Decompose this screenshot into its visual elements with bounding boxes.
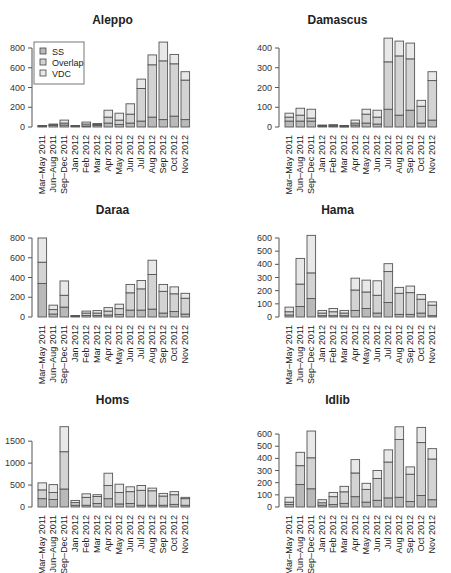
bar-segment-overlap <box>159 291 168 313</box>
chart-svg: 0100200300400500600Mar–May 2011Jun–Aug 2… <box>225 190 450 380</box>
bar-segment-overlap <box>38 262 47 283</box>
y-tick-label: 600 <box>10 63 25 73</box>
bar-segment-overlap <box>428 459 437 500</box>
bar-segment-overlap <box>428 81 437 121</box>
bar-segment-overlap <box>104 117 113 123</box>
bar-segment-ss <box>60 489 69 507</box>
y-tick-label: 800 <box>10 43 25 53</box>
y-tick-label: 200 <box>257 478 272 488</box>
bar-segment-ss <box>362 308 371 317</box>
bar-segment-vdc <box>296 452 305 465</box>
x-tick-label: Jan 2012 <box>317 135 327 172</box>
x-tick-label: Sep 2012 <box>405 515 415 554</box>
bar-segment-ss <box>373 500 382 507</box>
bar-segment-overlap <box>406 59 415 110</box>
bar-segment-vdc <box>49 124 58 125</box>
x-tick-label: Sep 2012 <box>405 325 415 364</box>
x-tick-label: May 2012 <box>114 135 124 175</box>
y-tick-label: 600 <box>10 253 25 263</box>
bar-segment-overlap <box>417 443 426 496</box>
y-tick-label: 200 <box>10 292 25 302</box>
y-tick-label: 300 <box>257 466 272 476</box>
bar-segment-vdc <box>428 72 437 81</box>
bar-segment-vdc <box>49 485 58 493</box>
y-tick-label: 600 <box>257 233 272 243</box>
x-tick-label: Jun–Aug 2011 <box>295 135 305 192</box>
x-tick-label: Jan 2012 <box>70 515 80 552</box>
x-tick-label: May 2012 <box>361 325 371 365</box>
bar-segment-vdc <box>406 467 415 474</box>
bar-segment-ss <box>351 497 360 507</box>
bar-segment-vdc <box>71 126 80 127</box>
y-tick-label: 100 <box>257 299 272 309</box>
bar-segment-overlap <box>148 65 157 117</box>
bar-segment-vdc <box>71 316 80 317</box>
x-tick-label: Jun–Aug 2011 <box>48 325 58 382</box>
chart-svg: 0200400600800Mar–May 2011Jun–Aug 2011Sep… <box>0 190 225 380</box>
bar-segment-overlap <box>137 289 146 310</box>
bar-segment-overlap <box>181 499 190 506</box>
bar-segment-overlap <box>49 310 58 314</box>
x-tick-label: Jul 2012 <box>136 515 146 549</box>
y-tick-label: 200 <box>257 83 272 93</box>
bar-segment-ss <box>49 500 58 507</box>
bar-segment-overlap <box>296 115 305 121</box>
bar-segment-ss <box>115 504 124 507</box>
x-tick-label: Jul 2012 <box>383 515 393 549</box>
x-tick-label: Jun–Aug 2011 <box>295 515 305 572</box>
bar-segment-vdc <box>170 287 179 294</box>
bar-segment-vdc <box>170 492 179 495</box>
bar-segment-ss <box>38 499 47 507</box>
bar-segment-ss <box>384 109 393 127</box>
x-tick-label: Nov 2012 <box>180 515 190 554</box>
bar-segment-vdc <box>384 38 393 62</box>
y-tick-label: 0 <box>267 502 272 512</box>
bar-segment-vdc <box>329 492 338 496</box>
x-tick-label: Feb 2012 <box>81 325 91 363</box>
y-tick-label: 0 <box>20 312 25 322</box>
bar-segment-overlap <box>395 440 404 498</box>
bar-segment-overlap <box>406 474 415 501</box>
bar-segment-ss <box>104 123 113 127</box>
bar-segment-vdc <box>373 471 382 479</box>
x-tick-label: Jan 2012 <box>70 135 80 172</box>
bar-segment-vdc <box>395 427 404 440</box>
bar-segment-vdc <box>285 307 294 312</box>
bar-segment-ss <box>126 123 135 127</box>
y-tick-label: 400 <box>257 43 272 53</box>
bar-segment-ss <box>417 123 426 127</box>
bar-segment-vdc <box>395 41 404 56</box>
bar-segment-ss <box>362 123 371 127</box>
bar-segment-vdc <box>38 483 47 490</box>
chart-panel-homs: Homs050010001500Mar–May 2011Jun–Aug 2011… <box>0 380 225 570</box>
bar-segment-ss <box>307 121 316 127</box>
chart-panel-daraa: Daraa0200400600800Mar–May 2011Jun–Aug 20… <box>0 190 225 380</box>
chart-panel-aleppo: Aleppo0200400600800Mar–May 2011Jun–Aug 2… <box>0 0 225 190</box>
bar-segment-overlap <box>60 452 69 489</box>
x-tick-label: Jun 2012 <box>125 325 135 362</box>
y-tick-label: 600 <box>257 429 272 439</box>
x-tick-label: May 2012 <box>361 515 371 555</box>
bar-segment-overlap <box>159 496 168 505</box>
bar-segment-overlap <box>395 293 404 314</box>
chart-svg: 0200400600800Mar–May 2011Jun–Aug 2011Sep… <box>0 0 225 190</box>
chart-panel-damascus: Damascus0100200300400Mar–May 2011Jun–Aug… <box>225 0 450 190</box>
y-tick-label: 0 <box>267 312 272 322</box>
y-tick-label: 300 <box>257 63 272 73</box>
x-tick-label: Aug 2012 <box>147 135 157 174</box>
bar-segment-vdc <box>329 308 338 311</box>
bar-segment-vdc <box>148 55 157 65</box>
bar-segment-overlap <box>93 496 102 503</box>
bar-segment-vdc <box>181 497 190 498</box>
x-tick-label: Feb 2012 <box>328 325 338 363</box>
bar-segment-vdc <box>362 483 371 489</box>
bar-segment-vdc <box>159 284 168 291</box>
bar-segment-vdc <box>104 473 113 485</box>
x-tick-label: Mar–May 2011 <box>37 135 47 194</box>
x-tick-label: Aug 2012 <box>394 135 404 174</box>
bar-segment-overlap <box>373 478 382 500</box>
bar-segment-overlap <box>362 114 371 123</box>
bar-segment-vdc <box>417 427 426 442</box>
bar-segment-vdc <box>115 304 124 308</box>
x-tick-label: Sep–Dec 2011 <box>306 515 316 573</box>
